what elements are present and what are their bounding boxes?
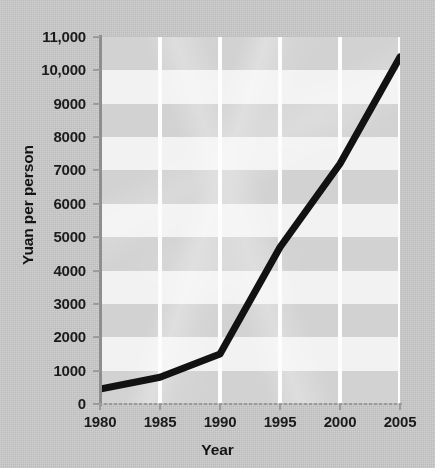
y-axis-tick [93, 203, 100, 205]
y-axis-tick [93, 136, 100, 138]
y-axis-tick-label: 10,000 [41, 62, 86, 77]
y-axis-tick-label: 11,000 [42, 29, 86, 44]
plot-area [100, 37, 400, 404]
x-axis-tick-label: 1985 [144, 414, 177, 429]
y-axis-tick-label: 8000 [53, 129, 86, 144]
y-axis-title: Yuan per person [19, 130, 37, 280]
y-axis-tick [93, 303, 100, 305]
chart-figure: 010002000300040005000600070008000900010,… [0, 0, 435, 468]
y-axis-tick-label: 3000 [53, 296, 86, 311]
y-axis-tick [93, 370, 100, 372]
x-axis-tick [399, 404, 401, 410]
y-axis-tick-label: 7000 [53, 162, 86, 177]
y-axis-tick-label: 2000 [53, 329, 86, 344]
x-axis-tick [219, 404, 221, 410]
line-series-yuan-per-person [100, 57, 400, 389]
x-axis-title: Year [0, 441, 435, 459]
y-axis-tick-label: 1000 [53, 363, 86, 378]
x-axis-tick [279, 404, 281, 410]
x-axis-tick [99, 404, 101, 410]
y-axis-tick [93, 270, 100, 272]
y-axis-tick [93, 36, 100, 38]
x-axis-tick-label: 1995 [264, 414, 297, 429]
y-axis-tick [93, 236, 100, 238]
x-axis-tick-label: 2000 [324, 414, 357, 429]
y-axis-tick-label: 0 [78, 396, 86, 411]
x-axis-tick-label: 1990 [204, 414, 237, 429]
y-axis-tick [93, 169, 100, 171]
y-axis-tick-label: 6000 [53, 196, 86, 211]
x-axis-tick [339, 404, 341, 410]
y-axis-tick [93, 336, 100, 338]
y-axis-tick [93, 103, 100, 105]
x-axis-line [99, 403, 402, 405]
line-series-svg [100, 37, 400, 404]
x-axis-tick-label: 1980 [84, 414, 117, 429]
y-axis-tick [93, 69, 100, 71]
y-axis-tick-label: 5000 [53, 229, 86, 244]
y-axis-tick-label: 4000 [53, 263, 86, 278]
x-axis-tick [159, 404, 161, 410]
x-axis-tick-label: 2005 [384, 414, 417, 429]
y-axis-tick-label: 9000 [53, 96, 86, 111]
y-axis-line [99, 35, 102, 406]
data-series-layer [100, 37, 400, 404]
